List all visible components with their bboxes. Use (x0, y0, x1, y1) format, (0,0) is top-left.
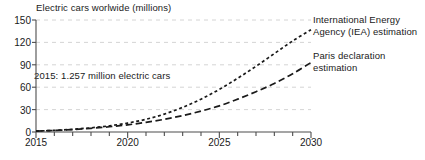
electric-cars-chart: Electric cars worlwide (millions) 2015: … (0, 0, 425, 160)
gridlines (36, 20, 311, 110)
axes (32, 20, 311, 138)
series-paths (36, 30, 311, 131)
plot-area (0, 0, 425, 160)
